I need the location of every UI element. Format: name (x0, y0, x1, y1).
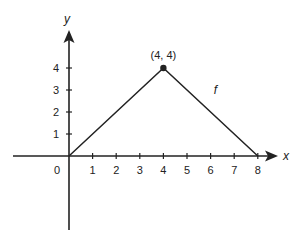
x-tick-label: 1 (90, 164, 96, 176)
function-graph: xy1234567812340(4, 4)f (0, 0, 292, 244)
origin-label: 0 (54, 164, 60, 176)
peak-point-marker (160, 65, 166, 71)
y-tick-label: 4 (53, 62, 59, 74)
x-axis-label: x (282, 149, 290, 163)
y-tick-label: 1 (53, 128, 59, 140)
x-tick-label: 8 (255, 164, 261, 176)
y-tick-label: 3 (53, 84, 59, 96)
y-axis-label: y (63, 12, 71, 26)
x-tick-label: 2 (113, 164, 119, 176)
function-line-f (69, 68, 258, 156)
x-tick-label: 4 (160, 164, 166, 176)
y-tick-label: 2 (53, 106, 59, 118)
x-tick-label: 7 (231, 164, 237, 176)
x-tick-label: 6 (208, 164, 214, 176)
x-tick-label: 5 (184, 164, 190, 176)
peak-point-label: (4, 4) (151, 49, 177, 61)
x-tick-label: 3 (137, 164, 143, 176)
function-name-label: f (214, 83, 219, 97)
